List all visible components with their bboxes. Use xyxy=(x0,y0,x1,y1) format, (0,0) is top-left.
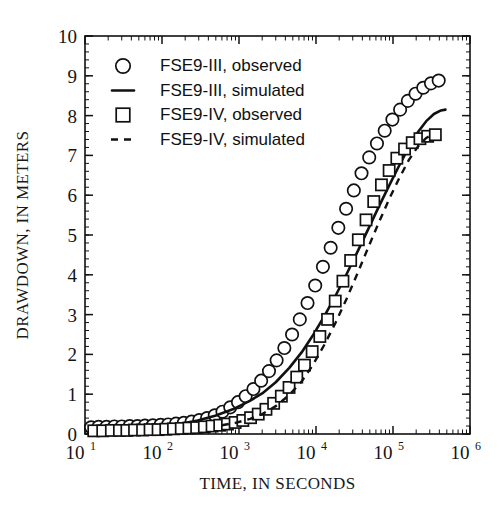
x-tick-label: 10 xyxy=(297,442,316,463)
y-tick-label: 3 xyxy=(68,305,78,326)
y-tick-label: 0 xyxy=(68,424,78,445)
x-tick-label: 10 xyxy=(451,442,470,463)
y-tick-label: 4 xyxy=(68,265,78,286)
x-tick-exponent: 4 xyxy=(321,439,327,453)
legend-label: FSE9-III, observed xyxy=(160,56,302,75)
x-tick-label: 10 xyxy=(220,442,239,463)
legend-label: FSE9-IV, observed xyxy=(160,105,302,124)
y-tick-label: 7 xyxy=(68,145,78,166)
x-axis-title: TIME, IN SECONDS xyxy=(199,474,355,493)
y-tick-label: 10 xyxy=(58,26,77,47)
y-tick-label: 5 xyxy=(68,225,78,246)
legend-label: FSE9-III, simulated xyxy=(160,81,305,100)
y-tick-label: 1 xyxy=(68,384,78,405)
chart-canvas: 101102103104105106 012345678910 TIME, IN… xyxy=(0,0,499,519)
x-tick-exponent: 5 xyxy=(398,439,404,453)
x-tick-exponent: 3 xyxy=(244,439,250,453)
x-tick-label: 10 xyxy=(66,442,85,463)
x-tick-label: 10 xyxy=(374,442,393,463)
x-tick-exponent: 2 xyxy=(167,439,173,453)
x-tick-label: 10 xyxy=(143,442,162,463)
y-tick-label: 8 xyxy=(68,106,78,127)
x-tick-exponent: 1 xyxy=(90,439,96,453)
y-tick-label: 6 xyxy=(68,185,78,206)
y-tick-label: 9 xyxy=(68,66,78,87)
y-axis-title: DRAWDOWN, IN METERS xyxy=(13,131,32,340)
y-tick-label: 2 xyxy=(68,344,78,365)
legend-label: FSE9-IV, simulated xyxy=(160,130,305,149)
drawdown-time-figure: 101102103104105106 012345678910 TIME, IN… xyxy=(0,0,499,519)
x-tick-exponent: 6 xyxy=(475,439,481,453)
